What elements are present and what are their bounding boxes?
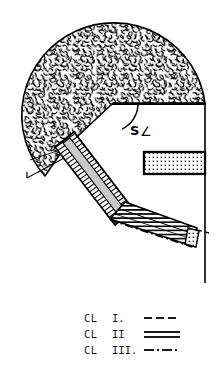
lower-arm-band <box>110 202 197 246</box>
legend-roman-numeral: I. <box>112 312 125 324</box>
angle-symbol-s: S <box>130 123 139 138</box>
end-granular-block <box>185 228 199 247</box>
upper-core-stripe <box>63 138 126 216</box>
legend-roman-numeral: III. <box>112 344 137 356</box>
legend-prefix: CL <box>84 344 97 356</box>
figure-root: S ∠ <box>0 0 221 374</box>
legend-row: CL I. <box>84 312 180 324</box>
legend-row: CL III. <box>84 344 180 356</box>
legend-roman-numeral: II <box>112 328 125 340</box>
legend: CL I. CL II CL III. <box>84 312 180 356</box>
legend-row: CL II <box>84 328 180 340</box>
angle-glyph-icon: ∠ <box>140 124 152 139</box>
technical-diagram: S ∠ <box>0 0 221 374</box>
legend-prefix: CL <box>84 328 97 340</box>
right-granular-layer <box>144 152 205 174</box>
legend-prefix: CL <box>84 312 97 324</box>
